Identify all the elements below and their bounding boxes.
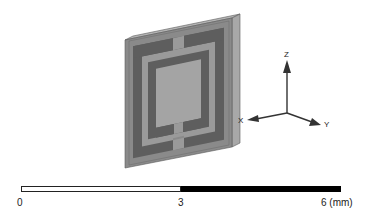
scale-label-6mm: 6 (mm)	[321, 197, 353, 209]
scale-bar-black-segment	[181, 186, 341, 192]
axes-triad	[247, 60, 321, 126]
y-axis-arrowhead	[309, 118, 321, 126]
z-axis-arrowhead	[283, 60, 291, 73]
scale-bar	[21, 186, 341, 192]
scale-bar-white-segment	[21, 186, 181, 192]
y-axis-label: Y	[324, 120, 330, 129]
x-axis-line	[256, 113, 287, 119]
resonator-pattern	[133, 28, 224, 159]
inner-ring-gap-bottom	[174, 122, 183, 134]
substrate-side-face	[232, 14, 240, 147]
scale-label-3: 3	[178, 197, 184, 209]
z-axis-label: Z	[284, 50, 289, 59]
center-patch	[156, 59, 201, 127]
y-axis-line	[287, 113, 312, 122]
outer-ring-gap-top	[173, 36, 184, 50]
x-axis-arrowhead	[247, 115, 259, 122]
scale-label-0: 0	[17, 197, 23, 209]
x-axis-label: X	[238, 116, 244, 125]
